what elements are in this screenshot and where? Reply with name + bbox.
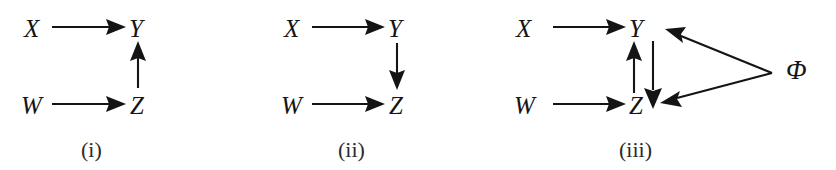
panel-iii-edges xyxy=(505,0,836,170)
edge-x-to-y-arrowhead xyxy=(106,19,126,35)
edge-phi-to-y-arrowhead xyxy=(665,27,686,43)
node-y: Y xyxy=(388,16,402,41)
node-w: W xyxy=(514,93,535,118)
edge-z-to-y-arrowhead xyxy=(626,41,642,61)
node-y: Y xyxy=(129,16,143,41)
edge-y-to-z-arrowhead xyxy=(389,70,405,90)
edge-w-to-z-arrowhead xyxy=(606,96,626,112)
panel-ii: X Y W Z (ii) xyxy=(262,0,512,170)
edge-z-to-y-arrowhead xyxy=(130,41,146,61)
node-x: X xyxy=(516,16,531,41)
node-x: X xyxy=(24,16,39,41)
node-z: Z xyxy=(629,93,643,118)
edge-y-to-z-arrowhead xyxy=(644,88,662,109)
panel-ii-edges xyxy=(262,0,512,170)
edge-phi-to-z-line xyxy=(677,73,772,98)
edge-phi-to-z-arrowhead xyxy=(660,91,682,107)
node-z: Z xyxy=(389,93,403,118)
node-z: Z xyxy=(130,93,144,118)
node-phi: Φ xyxy=(786,57,807,84)
panel-iii-caption: (iii) xyxy=(619,139,652,161)
node-x: X xyxy=(284,16,299,41)
panel-i-caption: (i) xyxy=(81,139,102,161)
edge-w-to-z-arrowhead xyxy=(106,96,126,112)
node-y: Y xyxy=(629,16,643,41)
panel-i: X Y W Z (i) xyxy=(0,0,260,170)
edge-x-to-y-arrowhead xyxy=(606,19,626,35)
node-w: W xyxy=(281,93,302,118)
edge-w-to-z-arrowhead xyxy=(365,96,385,112)
edge-phi-to-y-line xyxy=(681,36,772,73)
edge-x-to-y-arrowhead xyxy=(365,19,385,35)
node-w: W xyxy=(21,93,42,118)
panel-iii: X Y W Z Φ (iii) xyxy=(505,0,836,170)
causal-diagram-figure: X Y W Z (i) X Y W Z (ii) xyxy=(0,0,836,170)
panel-ii-caption: (ii) xyxy=(338,139,365,161)
